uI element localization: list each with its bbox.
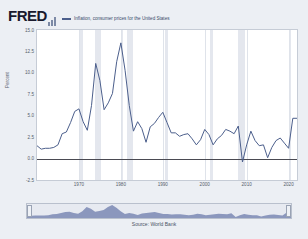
y-axis-tick-label: -2.5 (2, 178, 34, 183)
plot-area[interactable] (36, 29, 298, 181)
bar-chart-icon (48, 12, 57, 21)
range-start-handle[interactable] (27, 205, 32, 217)
navigator-area-chart (27, 204, 291, 218)
series-line-chart (37, 30, 297, 180)
x-axis-ticks: 197019801990200020102020 (36, 182, 298, 192)
x-axis-tick-label: 2010 (242, 182, 252, 188)
y-axis-tick-label: 0.0 (2, 156, 34, 161)
y-axis-tick-label: 2.5 (2, 135, 34, 140)
fred-chart-card: FRED Inflation, consumer prices for the … (0, 0, 308, 239)
x-axis-tick-label: 1990 (158, 182, 168, 188)
x-axis-tick-label: 2000 (200, 182, 210, 188)
range-navigator[interactable] (26, 203, 292, 219)
y-axis-ticks: 15.012.510.07.55.02.50.0-2.5 (0, 29, 34, 181)
chart-legend[interactable]: Inflation, consumer prices for the Unite… (62, 14, 170, 24)
fred-logo[interactable]: FRED (8, 8, 47, 23)
y-axis-tick-label: 7.5 (2, 92, 34, 97)
range-end-handle[interactable] (286, 205, 291, 217)
y-axis-tick-label: 15.0 (2, 28, 34, 33)
chart-header: FRED Inflation, consumer prices for the … (0, 0, 308, 30)
y-axis-tick-label: 10.0 (2, 70, 34, 75)
y-axis-tick-label: 5.0 (2, 113, 34, 118)
legend-color-swatch (62, 18, 71, 20)
legend-series-label: Inflation, consumer prices for the Unite… (74, 16, 170, 22)
x-axis-tick-label: 2020 (283, 182, 293, 188)
source-note: Source: World Bank (0, 221, 308, 227)
y-axis-tick-label: 12.5 (2, 49, 34, 54)
x-axis-tick-label: 1980 (116, 182, 126, 188)
x-axis-tick-label: 1970 (74, 182, 84, 188)
